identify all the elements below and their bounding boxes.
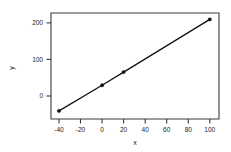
x-tick-label: 20 [120,126,128,133]
x-tick-label: 80 [185,126,193,133]
x-tick-label: 40 [142,126,150,133]
x-tick-label: -20 [76,126,86,133]
data-point [100,84,103,87]
data-point [208,18,211,21]
x-tick-label: 0 [100,126,104,133]
y-tick-label: 100 [32,56,43,63]
x-tick-label: -40 [54,126,64,133]
y-axis-title: y [8,66,16,70]
line-chart: -40 -20 0 20 40 60 80 100 0 100 200 x y [0,0,231,152]
y-tick-label: 0 [39,92,43,99]
data-point [57,109,60,112]
chart-figure: -40 -20 0 20 40 60 80 100 0 100 200 x y [0,0,231,152]
data-point [122,70,125,73]
x-tick-label: 100 [204,126,215,133]
y-tick-label: 200 [32,19,43,26]
x-tick-label: 60 [163,126,171,133]
x-axis-title: x [133,139,137,146]
